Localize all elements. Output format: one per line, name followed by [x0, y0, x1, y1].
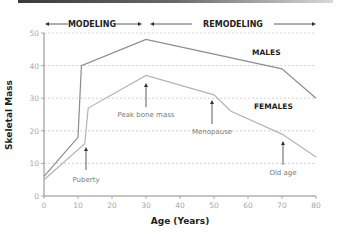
x-tick-label: 50 — [209, 201, 219, 210]
males-label: MALES — [252, 48, 281, 57]
y-tick-label: 10 — [29, 159, 39, 168]
y-tick-label: 40 — [29, 62, 39, 71]
x-tick-label: 10 — [73, 201, 83, 210]
x-tick-label: 20 — [107, 201, 117, 210]
x-axis-title: Age (Years) — [151, 216, 210, 226]
phase-modeling-label: MODELING — [68, 20, 116, 29]
y-tick-label: 0 — [34, 192, 39, 201]
y-tick-label: 50 — [29, 29, 39, 38]
x-tick-label: 80 — [311, 201, 321, 210]
y-axis-title: Skeletal Mass — [4, 80, 14, 150]
females-label: FEMALES — [254, 102, 293, 111]
y-tick-label: 30 — [29, 94, 39, 103]
x-tick-label: 60 — [243, 201, 253, 210]
x-tick-label: 40 — [175, 201, 185, 210]
annotation-old-age: Old age — [269, 169, 296, 177]
x-tick-label: 30 — [141, 201, 151, 210]
females-line — [44, 75, 316, 179]
y-tick-label: 20 — [29, 127, 39, 136]
annotation-peak-bone-mass: Peak bone mass — [118, 111, 175, 119]
phase-remodeling-label: REMODELING — [203, 20, 263, 29]
x-tick-label: 70 — [277, 201, 287, 210]
skeletal-mass-chart: 0102030405001020304050607080 PubertyPeak… — [0, 0, 339, 234]
x-tick-label: 0 — [42, 201, 47, 210]
annotation-puberty: Puberty — [72, 176, 99, 184]
annotation-menopause: Menopause — [192, 128, 232, 136]
